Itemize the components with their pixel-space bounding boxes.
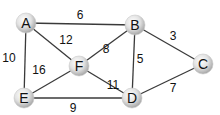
weighted-graph: 61210853161197 ABCDEF bbox=[0, 0, 220, 115]
edge-weight-b-f: 8 bbox=[103, 42, 110, 56]
nodes-group: ABCDEF bbox=[14, 13, 213, 108]
edge-weight-f-d: 11 bbox=[107, 78, 120, 92]
edge-weight-f-e: 16 bbox=[32, 63, 46, 77]
node-f: F bbox=[69, 56, 89, 76]
node-e: E bbox=[14, 88, 34, 108]
node-d: D bbox=[122, 88, 142, 108]
edge-weight-b-d: 5 bbox=[137, 52, 144, 66]
node-label: E bbox=[19, 90, 28, 106]
node-b: B bbox=[125, 15, 145, 35]
node-c: C bbox=[193, 54, 213, 74]
edge-d-c bbox=[132, 64, 203, 98]
edge-weight-a-e: 10 bbox=[2, 51, 16, 65]
node-label: A bbox=[21, 15, 31, 31]
edge-weight-e-d: 9 bbox=[70, 101, 77, 115]
edge-a-b bbox=[26, 23, 135, 25]
edge-a-e bbox=[24, 23, 26, 98]
edge-weight-a-f: 12 bbox=[59, 33, 73, 47]
node-label: C bbox=[198, 56, 208, 72]
edge-weight-b-c: 3 bbox=[170, 29, 177, 43]
node-label: D bbox=[127, 90, 137, 106]
edge-weight-d-c: 7 bbox=[170, 81, 177, 95]
node-a: A bbox=[16, 13, 36, 33]
edge-weight-a-b: 6 bbox=[77, 8, 84, 22]
node-label: B bbox=[130, 17, 139, 33]
edge-b-d bbox=[132, 25, 135, 98]
node-label: F bbox=[75, 58, 84, 74]
